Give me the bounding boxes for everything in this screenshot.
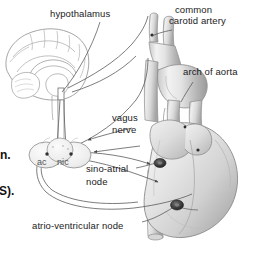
label-common-carotid-line1: common: [175, 4, 212, 15]
label-common-carotid-line2: carotid artery: [169, 15, 226, 26]
label-vagus-nerve-line2: nerve: [112, 124, 136, 135]
label-hypothalamus: hypothalamus: [50, 8, 110, 19]
label-vagus-nerve-line1: vagus: [112, 112, 138, 123]
label-sino-atrial-node-line2: node: [86, 176, 108, 187]
label-atrio-ventricular-node: atrio-ventricular node: [32, 220, 123, 231]
label-ganglion-left: ac: [37, 157, 47, 168]
label-ganglion-right: nic: [57, 157, 69, 168]
anatomical-diagram: hypothalamus common carotid artery arch …: [0, 0, 255, 257]
label-sino-atrial-node-line1: sino-atrial: [86, 163, 128, 174]
heart-illustration: [144, 120, 237, 238]
cutoff-text-bottom: S).: [0, 184, 14, 198]
brain-illustration: [6, 29, 89, 142]
label-arch-of-aorta: arch of aorta: [183, 66, 238, 77]
cutoff-text-top: n.: [0, 148, 11, 162]
